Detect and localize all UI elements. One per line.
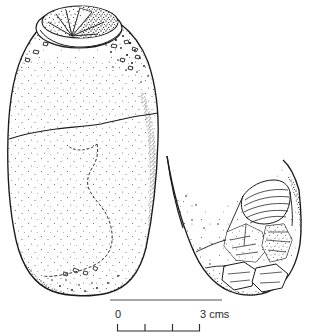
striking-platform [36, 6, 122, 48]
artefact-illustration: 0 3 cms [0, 0, 310, 336]
scale-bar-start-label: 0 [115, 308, 121, 320]
figure-root: 0 3 cms [0, 0, 310, 336]
scale-bar-end-label: 3 cms [200, 308, 230, 320]
